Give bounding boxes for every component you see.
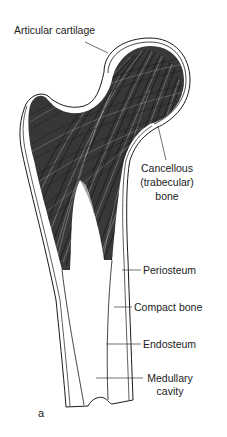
label-medullary-line2: cavity	[157, 385, 185, 397]
leader-cancellous	[158, 126, 166, 160]
label-endosteum: Endosteum	[143, 338, 196, 350]
femur-diagram: Articular cartilage Cancellous (trabecul…	[0, 0, 227, 437]
label-medullary-line1: Medullary	[147, 372, 193, 384]
label-articular-cartilage: Articular cartilage	[14, 24, 95, 36]
label-periosteum: Periosteum	[143, 264, 196, 276]
leader-articular-cartilage	[85, 42, 108, 53]
label-cancellous-line2: (trabecular)	[140, 176, 194, 188]
label-compact-bone: Compact bone	[134, 301, 202, 313]
cancellous-bone-region	[20, 40, 190, 280]
panel-letter: a	[38, 407, 45, 419]
label-cancellous-line1: Cancellous	[141, 162, 193, 174]
label-cancellous-line3: bone	[155, 190, 179, 202]
